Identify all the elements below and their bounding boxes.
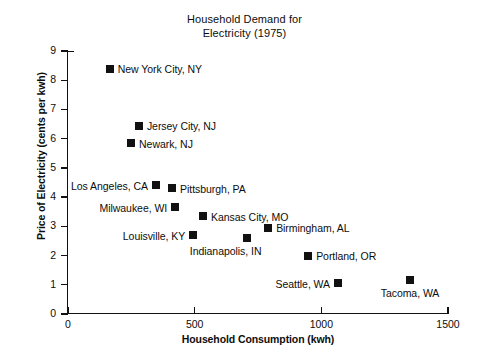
data-point-marker [243, 234, 251, 242]
data-point-label: Milwaukee, WI [100, 202, 168, 214]
chart-title: Household Demand for Electricity (1975) [0, 12, 489, 40]
chart-title-line-2: Electricity (1975) [0, 26, 489, 40]
data-point-marker [135, 122, 143, 130]
data-point-label: Los Angeles, CA [71, 180, 148, 192]
data-point-label: Louisville, KY [123, 230, 185, 242]
data-point-marker [127, 139, 135, 147]
data-point-marker [152, 181, 160, 189]
data-point-marker [171, 203, 179, 211]
data-point-label: Newark, NJ [139, 138, 193, 150]
data-point-marker [304, 252, 312, 260]
data-point-label: Kansas City, MO [211, 211, 288, 223]
data-point-marker [106, 65, 114, 73]
y-axis-tick-mark [61, 226, 68, 227]
x-axis-tick-label: 1500 [423, 318, 473, 330]
y-axis-tick-mark [61, 138, 68, 139]
y-axis-tick-mark [61, 80, 68, 81]
y-axis-tick-mark [61, 284, 68, 285]
data-point-marker [264, 224, 272, 232]
data-point-label: Indianapolis, IN [190, 245, 262, 257]
y-axis-tick-mark [61, 255, 68, 256]
data-point-label: Portland, OR [316, 250, 376, 262]
x-axis-title: Household Consumption (kwh) [68, 333, 448, 345]
y-axis-tick-mark [61, 50, 68, 51]
data-point-label: Seattle, WA [276, 278, 331, 290]
chart-figure: Household Demand for Electricity (1975) … [0, 0, 489, 356]
data-point-label: New York City, NY [118, 63, 202, 75]
y-axis-tick-mark [61, 109, 68, 110]
data-point-marker [334, 279, 342, 287]
y-axis-tick-mark [61, 196, 68, 197]
data-point-label: Jersey City, NJ [147, 120, 216, 132]
data-point-marker [189, 231, 197, 239]
x-axis-tick-label: 0 [43, 318, 93, 330]
data-point-marker [199, 212, 207, 220]
data-point-label: Tacoma, WA [381, 287, 440, 299]
y-axis-title: Price of Electricity (cents per kwh) [35, 31, 47, 281]
y-axis-tick-mark [61, 167, 68, 168]
chart-title-line-1: Household Demand for [0, 12, 489, 26]
data-point-label: Pittsburgh, PA [180, 183, 246, 195]
x-axis-tick-label: 1000 [296, 318, 346, 330]
data-point-marker [406, 276, 414, 284]
x-axis-tick-label: 500 [170, 318, 220, 330]
data-point-label: Birmingham, AL [276, 222, 349, 234]
data-point-marker [168, 184, 176, 192]
